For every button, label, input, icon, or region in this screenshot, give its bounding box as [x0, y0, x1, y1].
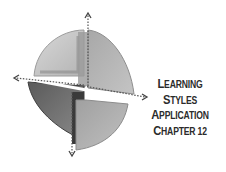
title-initial: S	[163, 92, 170, 107]
title-line-2: STYLES	[143, 91, 217, 107]
title-rest: EARNING	[164, 79, 202, 90]
title-line-4: CHAPTER 12	[143, 122, 217, 138]
title-rest: PPLICATION	[159, 110, 209, 121]
quadrant-top-right	[78, 30, 134, 94]
quadrant-top-left	[34, 30, 84, 76]
title-rest: HAPTER 12	[161, 126, 207, 137]
title-line-1: LEARNING	[143, 75, 217, 91]
title-initial: L	[157, 76, 164, 91]
title-line-3: APPLICATION	[143, 106, 217, 122]
title-initial: C	[153, 123, 161, 138]
title-initial: A	[151, 107, 159, 122]
chapter-title: LEARNING STYLES APPLICATION CHAPTER 12	[137, 75, 223, 137]
title-rest: TYLES	[170, 95, 197, 106]
quadrant-bottom-right	[76, 100, 128, 150]
